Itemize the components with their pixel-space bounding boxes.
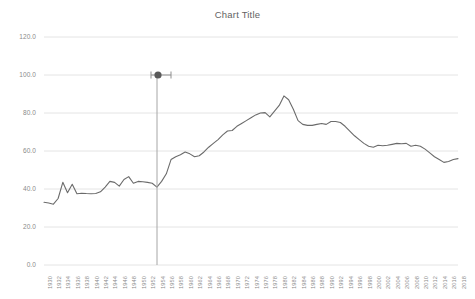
x-axis-tick-label: 1996: [357, 276, 363, 289]
x-axis-tick-label: 1986: [310, 276, 316, 289]
x-axis-tick-label: 1960: [188, 276, 194, 289]
x-axis-tick-label: 1994: [348, 276, 354, 289]
x-axis-tick-label: 1992: [338, 276, 344, 289]
x-axis-tick-label: 1978: [272, 276, 278, 289]
x-axis-tick-label: 1944: [112, 276, 118, 289]
x-axis-tick-label: 1936: [75, 276, 81, 289]
x-axis-tick-label: 1938: [84, 276, 90, 289]
x-axis-tick-label: 1934: [65, 276, 71, 289]
x-axis-ticks: 1930193219341936193819401942194419461948…: [0, 0, 475, 299]
x-axis-tick-label: 2012: [432, 276, 438, 289]
x-axis-tick-label: 2016: [451, 276, 457, 289]
x-axis-tick-label: 1958: [178, 276, 184, 289]
x-axis-tick-label: 1942: [103, 276, 109, 289]
x-axis-tick-label: 1954: [160, 276, 166, 289]
x-axis-tick-label: 1974: [254, 276, 260, 289]
x-axis-tick-label: 1972: [244, 276, 250, 289]
x-axis-tick-label: 2010: [423, 276, 429, 289]
x-axis-tick-label: 1950: [141, 276, 147, 289]
x-axis-tick-label: 1980: [282, 276, 288, 289]
x-axis-tick-label: 2018: [461, 276, 467, 289]
x-axis-tick-label: 1998: [367, 276, 373, 289]
x-axis-tick-label: 1930: [47, 276, 53, 289]
x-axis-tick-label: 1976: [263, 276, 269, 289]
x-axis-tick-label: 1988: [319, 276, 325, 289]
x-axis-tick-label: 1968: [225, 276, 231, 289]
x-axis-tick-label: 2000: [376, 276, 382, 289]
x-axis-tick-label: 1946: [122, 276, 128, 289]
x-axis-tick-label: 1940: [94, 276, 100, 289]
x-axis-tick-label: 1932: [56, 276, 62, 289]
x-axis-tick-label: 2014: [442, 276, 448, 289]
x-axis-tick-label: 2004: [395, 276, 401, 289]
x-axis-tick-label: 1982: [291, 276, 297, 289]
x-axis-tick-label: 1948: [131, 276, 137, 289]
x-axis-tick-label: 1966: [216, 276, 222, 289]
x-axis-tick-label: 1984: [301, 276, 307, 289]
x-axis-tick-label: 2006: [404, 276, 410, 289]
x-axis-tick-label: 1962: [197, 276, 203, 289]
x-axis-tick-label: 2002: [385, 276, 391, 289]
chart-container: Chart Title 0.020.040.060.080.0100.0120.…: [0, 0, 475, 299]
x-axis-tick-label: 1964: [207, 276, 213, 289]
x-axis-tick-label: 2008: [414, 276, 420, 289]
x-axis-tick-label: 1970: [235, 276, 241, 289]
x-axis-tick-label: 1952: [150, 276, 156, 289]
x-axis-tick-label: 1990: [329, 276, 335, 289]
x-axis-tick-label: 1956: [169, 276, 175, 289]
